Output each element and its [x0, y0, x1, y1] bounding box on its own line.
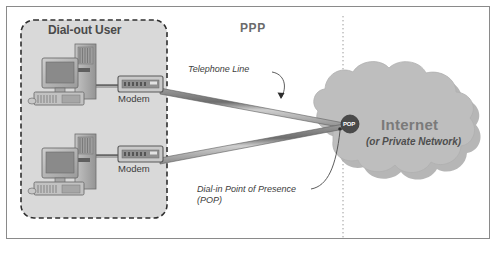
modem-upper	[118, 76, 163, 92]
ppp-label: PPP	[240, 22, 266, 34]
internet-cloud-label: Internet	[381, 117, 438, 132]
cable-lower	[96, 154, 120, 158]
modem-upper-label: Modem	[118, 94, 150, 104]
pop-callout-label-line1: Dial-in Point of Presence	[197, 185, 296, 194]
telephone-line-callout-label: Telephone Line	[188, 65, 249, 74]
pop-callout-label-line2: (POP)	[197, 196, 222, 205]
pop-badge-label: POP	[343, 121, 355, 127]
internet-cloud-sublabel: (or Private Network)	[366, 137, 461, 147]
modem-lower	[118, 146, 163, 162]
pop-leader-dot	[338, 127, 342, 131]
dialout-user-zone-label: Dial-out User	[48, 24, 121, 36]
modem-lower-label: Modem	[118, 164, 150, 174]
cable-upper	[96, 84, 120, 88]
diagram-canvas: Dial-out User PPP Modem Modem Telephone …	[0, 0, 497, 253]
